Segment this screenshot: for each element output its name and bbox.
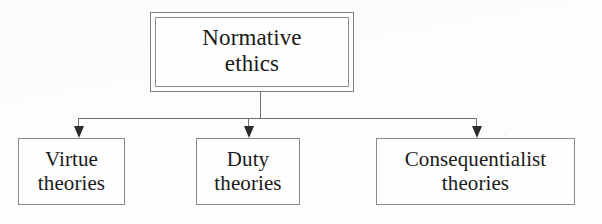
node-label-line-1: Duty <box>227 147 269 171</box>
node-label-line-2: theories <box>38 171 105 195</box>
node-label-line-2: theories <box>442 171 509 195</box>
node-inner-frame: Normative ethics <box>155 17 349 87</box>
node-duty-theories: Duty theories <box>196 138 300 205</box>
arrow-down-icon-consequentialist <box>472 126 482 138</box>
node-label-normative-ethics: Normative ethics <box>202 25 301 79</box>
node-virtue-theories: Virtue theories <box>18 138 125 205</box>
node-label-line-2: theories <box>214 171 281 195</box>
arrow-down-icon-virtue <box>74 126 84 138</box>
connector-horizontal-bus <box>78 118 477 119</box>
node-label-line-1: Normative <box>202 25 301 50</box>
node-label-line-1: Virtue <box>45 147 98 171</box>
node-label-virtue-theories: Virtue theories <box>38 148 105 196</box>
connector-root-stem <box>260 92 261 119</box>
diagram-canvas: Normative ethics Virtue theories Duty th… <box>0 0 602 224</box>
node-label-duty-theories: Duty theories <box>214 148 281 196</box>
node-label-consequentialist-theories: Consequentialist theories <box>405 148 547 196</box>
node-label-line-2: ethics <box>225 51 279 76</box>
node-label-line-1: Consequentialist <box>405 147 547 171</box>
arrow-down-icon-duty <box>244 126 254 138</box>
node-normative-ethics: Normative ethics <box>150 12 354 92</box>
node-consequentialist-theories: Consequentialist theories <box>376 138 575 205</box>
